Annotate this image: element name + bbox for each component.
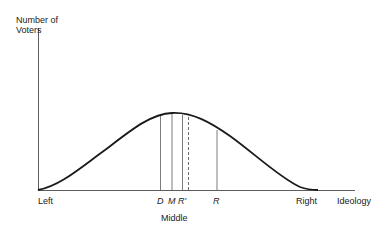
y-axis-label-line2: Voters — [16, 25, 42, 35]
marker-label-d: D — [157, 196, 164, 206]
marker-label-r-prime: R' — [178, 196, 186, 206]
voter-distribution-curve — [38, 113, 318, 190]
diagram-canvas — [0, 0, 391, 232]
y-axis-label-line1: Number of — [16, 15, 58, 25]
x-label-left: Left — [38, 196, 53, 206]
marker-label-m: M — [168, 196, 176, 206]
x-axis-label-ideology: Ideology — [337, 196, 371, 206]
marker-label-r: R — [213, 196, 220, 206]
x-label-middle: Middle — [161, 213, 188, 223]
x-label-right: Right — [296, 196, 317, 206]
